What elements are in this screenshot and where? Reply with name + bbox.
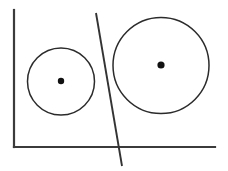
figure-canvas [0,0,228,171]
large-circle-center-dot [157,61,164,68]
geometric-diagram [0,0,228,171]
small-circle-center-dot [58,78,64,84]
